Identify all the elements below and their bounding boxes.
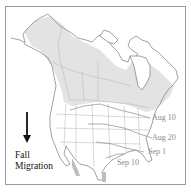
label-sep-1: Sep 1 <box>148 148 166 156</box>
label-aug-10: Aug 10 <box>152 114 176 122</box>
legend-title-line2: Migration <box>15 161 53 171</box>
breeding-range <box>24 16 174 112</box>
label-aug-20: Aug 20 <box>152 134 176 142</box>
isochrone-aug-20 <box>88 124 152 138</box>
baja-peninsula <box>72 158 80 176</box>
label-sep-10: Sep 10 <box>117 159 139 167</box>
down-arrow-icon <box>23 112 31 143</box>
isochrone-lines <box>70 104 152 158</box>
legend-title-line1: Fall <box>15 150 30 160</box>
gulf-coast-mexico <box>102 172 106 182</box>
arctic-islands <box>100 30 118 44</box>
